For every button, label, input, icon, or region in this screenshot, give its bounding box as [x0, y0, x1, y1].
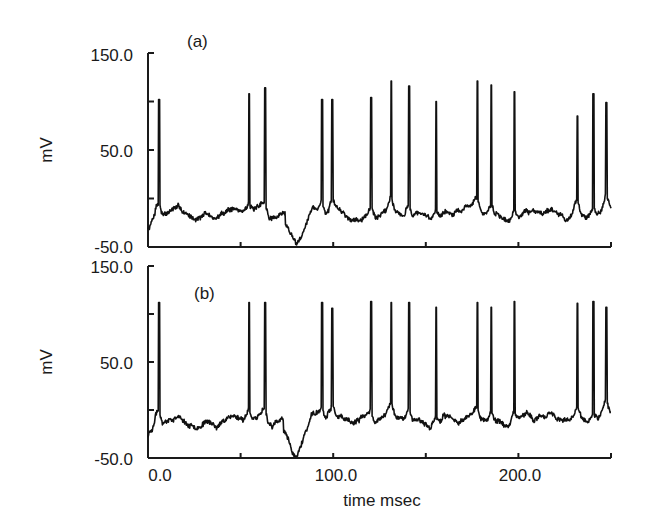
x-axis-title: time msec: [343, 491, 421, 510]
y-axis-title-a: mV: [37, 137, 56, 163]
panel-a: (a) 150.0 50.0 -50.0 mV: [37, 32, 611, 257]
xtick-label-200: 200.0: [499, 466, 542, 485]
panel-b-label: (b): [194, 284, 215, 303]
figure: (a) 150.0 50.0 -50.0 mV (b) 150.0 50.0 -…: [0, 0, 646, 531]
ytick-label-a-neg50: -50.0: [94, 238, 133, 257]
ytick-label-a-150: 150.0: [90, 46, 133, 65]
voltage-trace-b: [148, 302, 611, 457]
voltage-trace-a: [148, 81, 611, 245]
panel-a-label: (a): [187, 32, 208, 51]
xtick-label-0: 0.0: [148, 466, 172, 485]
xtick-label-100: 100.0: [315, 466, 358, 485]
ytick-label-b-neg50: -50.0: [94, 450, 133, 469]
ytick-label-b-50: 50.0: [100, 354, 133, 373]
y-axis-title-b: mV: [37, 349, 56, 375]
ytick-label-a-50: 50.0: [100, 142, 133, 161]
ytick-label-b-150: 150.0: [90, 258, 133, 277]
axes-b: [148, 266, 611, 458]
panel-b: (b) 150.0 50.0 -50.0 mV: [37, 258, 611, 469]
